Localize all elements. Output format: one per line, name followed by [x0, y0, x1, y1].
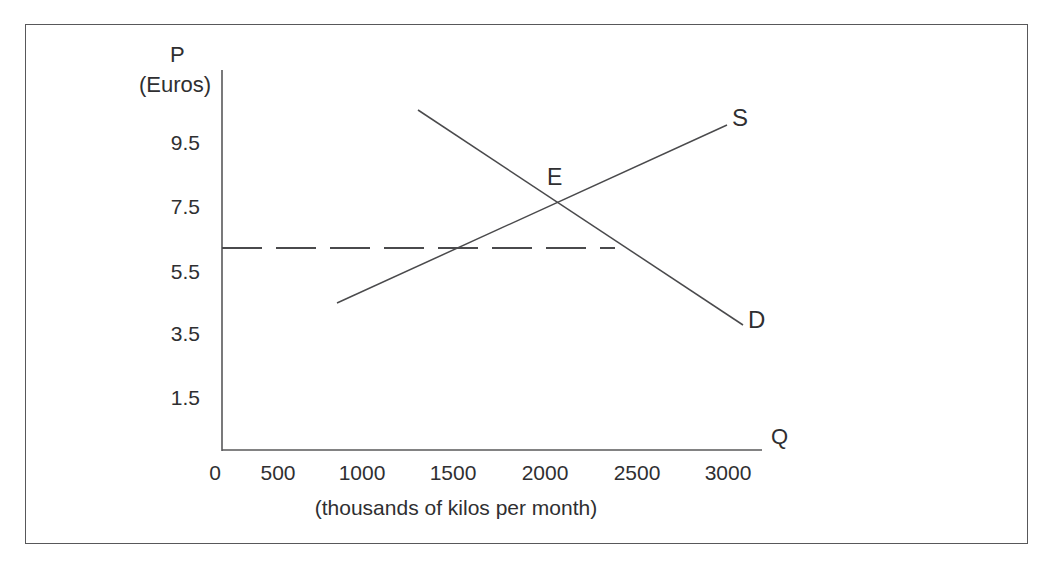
- y-axis-title-line1: P: [170, 44, 185, 66]
- y-tick-label-3-5: 3.5: [130, 323, 200, 344]
- x-tick-label-1000: 1000: [317, 462, 407, 483]
- supply-demand-figure: P (Euros) 9.5 7.5 5.5 3.5 1.5 0 500 1000…: [0, 0, 1052, 563]
- y-axis-title-line2: (Euros): [139, 74, 211, 96]
- y-tick-label-9-5: 9.5: [130, 132, 200, 153]
- x-tick-label-1500: 1500: [408, 462, 498, 483]
- x-tick-label-500: 500: [233, 462, 323, 483]
- equilibrium-point-label: E: [547, 166, 562, 189]
- x-tick-label-3000: 3000: [683, 462, 773, 483]
- y-tick-label-1-5: 1.5: [130, 387, 200, 408]
- demand-curve-label: D: [748, 308, 765, 332]
- x-axis-subtitle: (thousands of kilos per month): [246, 497, 666, 518]
- supply-curve-label: S: [732, 106, 748, 130]
- y-tick-label-7-5: 7.5: [130, 196, 200, 217]
- x-tick-label-2500: 2500: [592, 462, 682, 483]
- x-axis-title: Q: [771, 426, 788, 448]
- x-tick-label-2000: 2000: [500, 462, 590, 483]
- y-tick-label-5-5: 5.5: [130, 261, 200, 282]
- demand-curve: [418, 110, 743, 325]
